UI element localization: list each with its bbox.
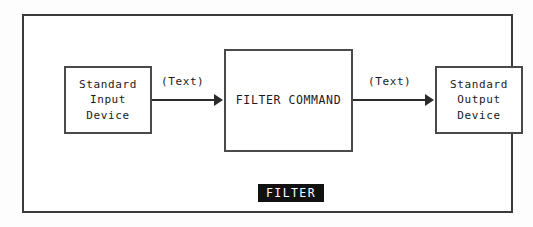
arrow-shaft xyxy=(152,99,216,101)
node-filter-command-label: FILTER COMMAND xyxy=(236,92,341,108)
node-input-line-1: Standard xyxy=(79,77,137,93)
filter-pipeline-diagram: Standard Input Device (Text) FILTER COMM… xyxy=(0,0,533,227)
node-output-line-1: Standard xyxy=(450,77,508,93)
edge-label-output-text: (Text) xyxy=(368,75,411,88)
arrow-head-icon xyxy=(214,94,223,106)
diagram-caption-filter: FILTER xyxy=(258,184,324,202)
arrow-head-icon xyxy=(425,94,434,106)
node-input-line-3: Device xyxy=(86,108,129,124)
node-input-line-2: Input xyxy=(90,92,126,108)
diagram-frame: Standard Input Device (Text) FILTER COMM… xyxy=(22,14,513,213)
node-filter-command: FILTER COMMAND xyxy=(224,49,353,152)
node-standard-output-device: Standard Output Device xyxy=(435,66,523,134)
edge-label-input-text: (Text) xyxy=(161,75,204,88)
node-standard-input-device: Standard Input Device xyxy=(64,66,152,134)
node-output-line-2: Output xyxy=(457,92,500,108)
arrow-shaft xyxy=(353,99,427,101)
arrow-filter-to-output xyxy=(353,93,435,107)
node-output-line-3: Device xyxy=(457,108,500,124)
arrow-input-to-filter xyxy=(152,93,224,107)
